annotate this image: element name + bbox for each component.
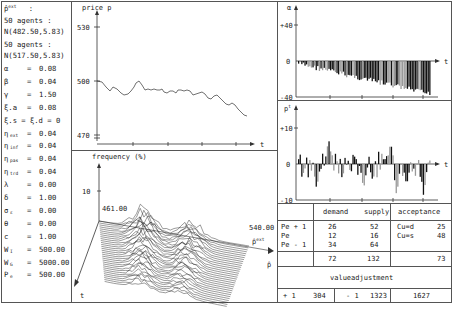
param-value: 0.00 bbox=[39, 220, 56, 227]
value-plus-value: 304 bbox=[313, 292, 326, 300]
header-supply: supply bbox=[364, 208, 389, 216]
total-demand: 72 bbox=[328, 255, 336, 263]
price-tick-500: 500 bbox=[77, 78, 90, 86]
price-ylabel: price p bbox=[82, 4, 112, 12]
param-value: 0.04 bbox=[39, 155, 56, 162]
pt-ylabel: pt bbox=[284, 104, 291, 113]
param-symbol: W bbox=[4, 246, 8, 253]
table-line bbox=[390, 204, 391, 266]
param-equals: = bbox=[27, 246, 31, 253]
param-value: 1.50 bbox=[39, 91, 56, 98]
demand-pe-minus-1: 34 bbox=[328, 241, 336, 249]
param-subscript: I bbox=[10, 250, 13, 255]
param-subscript: G bbox=[10, 263, 13, 268]
param-equals: = bbox=[27, 220, 31, 227]
param-symbol: θ bbox=[4, 220, 8, 227]
param-value: 0.08 bbox=[39, 104, 56, 111]
freq-axis-pext: p̂ext bbox=[252, 237, 265, 246]
param-value: 0.04 bbox=[39, 168, 56, 175]
table-line bbox=[390, 288, 391, 303]
freq-ztick: 10 bbox=[82, 188, 90, 196]
param-equals: = bbox=[27, 91, 31, 98]
param-equals: = bbox=[27, 259, 31, 266]
row-label-pe-minus-1: Pe - 1 bbox=[281, 241, 306, 249]
pt-tick-plus10: +10 bbox=[280, 125, 293, 133]
alpha-xlabel: t bbox=[444, 58, 448, 66]
param-value: 1.00 bbox=[39, 233, 56, 240]
acceptance-cud-label: Cu=d bbox=[397, 223, 414, 231]
param-equals: = bbox=[27, 78, 31, 85]
param-value: 0.04 bbox=[39, 130, 56, 137]
param-value: 0.04 bbox=[39, 78, 56, 85]
header-acceptance: acceptance bbox=[398, 208, 440, 216]
freq-right-value: 540.00 bbox=[249, 224, 274, 232]
param-symbol: η bbox=[4, 142, 8, 149]
price-xlabel: t bbox=[260, 141, 264, 149]
table-line bbox=[278, 251, 452, 252]
table-line bbox=[313, 204, 314, 266]
supply-pe-plus-1: 52 bbox=[370, 223, 378, 231]
param-symbol: η bbox=[4, 130, 8, 137]
group1-dist: N(482.50,5.83) bbox=[4, 28, 65, 35]
parameter-panel: p̂ext : 50 agents : N(482.50,5.83) 50 ag… bbox=[1, 1, 72, 303]
param-symbol: P bbox=[4, 271, 8, 278]
freq-axis-t: t bbox=[80, 292, 84, 300]
param-symbol: σ bbox=[4, 207, 8, 214]
param-subscript: inf bbox=[10, 146, 18, 151]
param-value: 500.00 bbox=[39, 271, 65, 278]
param-equals: = bbox=[27, 65, 31, 72]
param-equals: = bbox=[27, 181, 31, 188]
param-symbol: c bbox=[4, 233, 8, 240]
price-tick-470: 470 bbox=[77, 132, 90, 140]
pt-bars bbox=[298, 141, 431, 194]
header-demand: demand bbox=[323, 208, 348, 216]
price-plot: price p 530 500 470 t bbox=[72, 1, 277, 150]
acceptance-cus-value: 48 bbox=[437, 232, 445, 240]
freq-left-value: 461.00 bbox=[102, 205, 127, 213]
alpha-bars bbox=[298, 61, 431, 95]
row-label-pe: Pe bbox=[281, 232, 289, 240]
param-symbol: β bbox=[4, 78, 8, 85]
pt-tick-0: 0 bbox=[286, 161, 290, 169]
table-line bbox=[278, 288, 452, 289]
param-equals: = bbox=[27, 207, 31, 214]
value-plus-label: + 1 bbox=[283, 292, 296, 300]
param-symbol: λ bbox=[4, 181, 8, 188]
param-symbol: δ bbox=[4, 194, 8, 201]
table-line bbox=[334, 288, 335, 303]
price-line bbox=[97, 81, 247, 116]
alpha-ylabel: α bbox=[287, 4, 291, 12]
total-acceptance: 73 bbox=[437, 255, 445, 263]
param-equals: = bbox=[27, 142, 31, 149]
param-value: 0.04 bbox=[39, 142, 56, 149]
param-equals: = bbox=[27, 194, 31, 201]
demand-pe-plus-1: 26 bbox=[328, 223, 336, 231]
group2-label: 50 agents : bbox=[4, 41, 52, 48]
row-label-pe-plus-1: Pe + 1 bbox=[281, 223, 306, 231]
param-equals: = bbox=[27, 233, 31, 240]
demand-supply-table: demand supply acceptance Pe + 1 26 52 Cu… bbox=[278, 204, 452, 303]
value-minus-label: - 1 bbox=[346, 292, 359, 300]
table-line bbox=[278, 266, 452, 267]
param-symbol: γ bbox=[4, 91, 8, 98]
alpha-tick-plus40: +40 bbox=[280, 22, 293, 30]
param-symbol: ξ.s = ξ.d = 0 bbox=[4, 117, 60, 124]
param-equals: = bbox=[27, 130, 31, 137]
pt-plot: pt +10 0 -10 t bbox=[278, 101, 452, 203]
param-equals: = bbox=[27, 155, 31, 162]
value-adjustment-title: valueadjustment bbox=[330, 274, 393, 282]
pt-xlabel: t bbox=[444, 161, 448, 169]
param-header-colon: : bbox=[29, 4, 33, 13]
supply-pe: 16 bbox=[370, 232, 378, 240]
param-subscript: trd bbox=[10, 172, 18, 177]
param-symbol: ξ.a bbox=[4, 104, 17, 111]
group2-dist: N(517.50,5.83) bbox=[4, 52, 65, 59]
param-equals: = bbox=[27, 168, 31, 175]
acceptance-cud-value: 25 bbox=[437, 223, 445, 231]
param-equals: = bbox=[27, 104, 31, 111]
param-subscript: e bbox=[10, 275, 13, 280]
param-value: 1.00 bbox=[39, 194, 56, 201]
param-value: 0.08 bbox=[39, 65, 56, 72]
table-line bbox=[278, 220, 452, 221]
demand-pe: 12 bbox=[328, 232, 336, 240]
